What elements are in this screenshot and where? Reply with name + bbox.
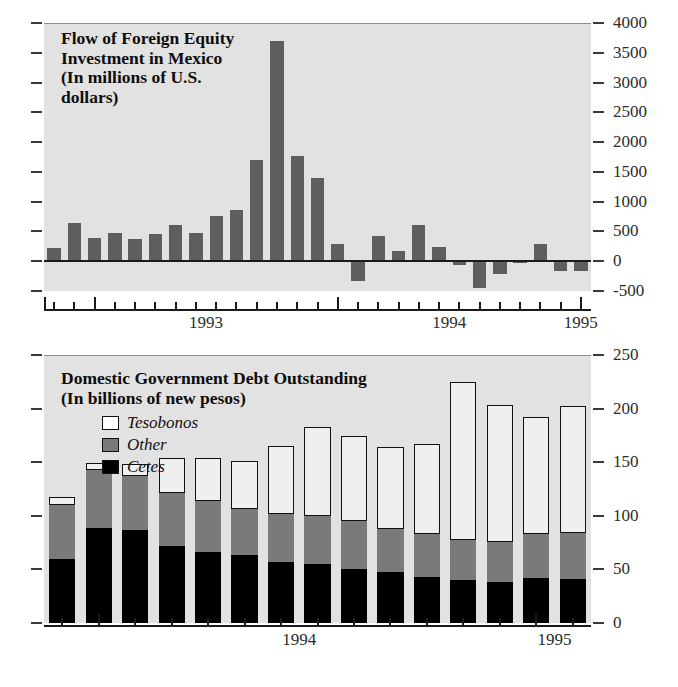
x-tick-major bbox=[535, 614, 537, 625]
bar bbox=[230, 210, 243, 261]
y-axis-tick-label: 2500 bbox=[613, 102, 647, 122]
y-tick-right bbox=[593, 171, 604, 173]
x-tick-major bbox=[337, 297, 339, 309]
x-tick-minor bbox=[53, 302, 55, 309]
x-tick-minor bbox=[458, 302, 460, 309]
y-tick-left bbox=[31, 568, 42, 570]
bar bbox=[210, 216, 223, 261]
stacked-bar bbox=[49, 497, 75, 623]
bar bbox=[189, 233, 202, 262]
x-tick-minor bbox=[479, 302, 481, 309]
x-tick-major bbox=[580, 297, 582, 309]
y-tick-right bbox=[593, 515, 604, 517]
bar-segment-cetes bbox=[49, 559, 75, 623]
bar bbox=[493, 261, 506, 274]
bar-segment-other bbox=[268, 514, 294, 562]
x-tick-minor bbox=[235, 302, 237, 309]
x-axis-year-label: 1994 bbox=[432, 313, 466, 333]
y-tick-left bbox=[31, 354, 42, 356]
bar-segment-tesobonos bbox=[195, 458, 221, 501]
bar-segment-other bbox=[195, 501, 221, 552]
stacked-bar bbox=[231, 461, 257, 623]
y-tick-right bbox=[593, 111, 604, 113]
bar-segment-cetes bbox=[268, 562, 294, 623]
x-tick-minor bbox=[398, 302, 400, 309]
y-axis-tick-label: 1500 bbox=[613, 162, 647, 182]
bar-segment-other bbox=[450, 540, 476, 580]
x-axis-year-label: 1994 bbox=[282, 630, 316, 650]
y-tick-right bbox=[593, 408, 604, 410]
y-tick-right bbox=[593, 354, 604, 356]
stacked-bar bbox=[86, 463, 112, 623]
bar-segment-cetes bbox=[377, 572, 403, 623]
y-tick-left bbox=[31, 141, 42, 143]
x-tick-minor bbox=[215, 302, 217, 309]
legend: Tesobonos Other Cetes bbox=[102, 412, 198, 478]
bar-segment-tesobonos bbox=[450, 382, 476, 541]
bar bbox=[128, 239, 141, 261]
x-tick-minor bbox=[438, 302, 440, 309]
bar-segment-cetes bbox=[450, 580, 476, 623]
y-tick-left bbox=[31, 111, 42, 113]
legend-item-other: Other bbox=[102, 434, 198, 455]
bar-segment-other bbox=[86, 470, 112, 528]
bar bbox=[88, 238, 101, 261]
bar-segment-tesobonos bbox=[231, 461, 257, 509]
x-tick-minor bbox=[499, 618, 501, 625]
x-tick-minor bbox=[134, 618, 136, 625]
bar-segment-cetes bbox=[159, 546, 185, 623]
bar-segment-other bbox=[414, 534, 440, 577]
x-tick-minor bbox=[207, 618, 209, 625]
y-tick-right bbox=[593, 290, 604, 292]
x-tick-minor bbox=[317, 302, 319, 309]
x-tick-minor bbox=[539, 302, 541, 309]
bar-segment-other bbox=[49, 505, 75, 559]
y-tick-right bbox=[593, 201, 604, 203]
stacked-bar bbox=[560, 406, 586, 623]
x-tick-minor bbox=[280, 618, 282, 625]
stacked-bar bbox=[159, 458, 185, 623]
y-tick-right bbox=[593, 461, 604, 463]
plot-area-bottom: Domestic Government Debt Outstanding (In… bbox=[44, 355, 591, 623]
title-line-4: dollars) bbox=[61, 88, 234, 108]
bar bbox=[534, 244, 547, 261]
bar-segment-tesobonos bbox=[49, 497, 75, 506]
bar bbox=[554, 261, 567, 271]
legend-swatch-cetes-icon bbox=[102, 460, 119, 474]
bar-segment-cetes bbox=[304, 564, 330, 623]
bar bbox=[291, 156, 304, 261]
x-axis-year-label: 1995 bbox=[538, 630, 572, 650]
bar-segment-cetes bbox=[341, 569, 367, 623]
bar bbox=[412, 225, 425, 261]
bar-segment-cetes bbox=[86, 528, 112, 623]
bar-segment-cetes bbox=[122, 530, 148, 623]
bar-segment-tesobonos bbox=[377, 447, 403, 528]
y-tick-left bbox=[31, 461, 42, 463]
y-tick-right bbox=[593, 52, 604, 54]
x-tick-major bbox=[98, 614, 100, 625]
chart-title-top: Flow of Foreign Equity Investment in Mex… bbox=[61, 29, 234, 107]
bar-segment-other bbox=[231, 509, 257, 555]
x-tick-minor bbox=[73, 302, 75, 309]
y-tick-right bbox=[593, 141, 604, 143]
bar-segment-other bbox=[523, 534, 549, 578]
x-tick-minor bbox=[353, 618, 355, 625]
bar bbox=[270, 41, 283, 261]
legend-label-cetes: Cetes bbox=[127, 458, 165, 475]
title-line-2: (In billions of new pesos) bbox=[61, 389, 367, 409]
bar bbox=[169, 225, 182, 261]
bar-segment-cetes bbox=[560, 579, 586, 623]
bar-segment-cetes bbox=[231, 555, 257, 623]
x-tick-minor bbox=[256, 302, 258, 309]
x-tick-minor bbox=[296, 302, 298, 309]
bar-segment-other bbox=[377, 529, 403, 572]
x-tick-minor bbox=[560, 302, 562, 309]
x-tick-minor bbox=[357, 302, 359, 309]
stacked-bar bbox=[304, 427, 330, 623]
legend-swatch-other-icon bbox=[102, 438, 119, 452]
y-axis-tick-label: 250 bbox=[613, 345, 639, 365]
legend-label-other: Other bbox=[127, 436, 167, 453]
x-tick-minor bbox=[175, 302, 177, 309]
title-line-1: Domestic Government Debt Outstanding bbox=[61, 369, 367, 389]
bar-segment-tesobonos bbox=[268, 446, 294, 514]
